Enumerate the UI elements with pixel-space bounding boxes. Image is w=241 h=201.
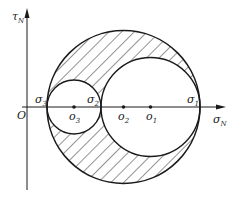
center-point-o3 — [72, 105, 76, 109]
center-point-o2 — [122, 105, 126, 109]
origin-label: O — [17, 109, 26, 122]
center-point-o1 — [149, 105, 153, 109]
mohr-circle-diagram: τN σN O σ3 σ2 σ1 o3 o2 o1 — [0, 0, 241, 201]
